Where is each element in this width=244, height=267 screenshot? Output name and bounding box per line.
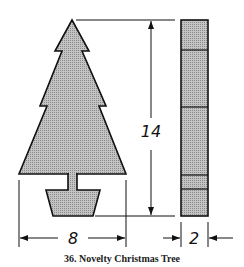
tree-trunk-and-pot xyxy=(46,174,100,216)
tree-crown xyxy=(19,20,126,174)
tree-front-view xyxy=(19,20,126,216)
drawing: 14 8 2 xyxy=(0,0,244,267)
height-value: 14 xyxy=(141,122,161,141)
thickness-value: 2 xyxy=(189,229,199,248)
tree-side-view xyxy=(181,20,208,216)
width-value: 8 xyxy=(68,229,78,248)
thickness-dimension: 2 xyxy=(163,222,233,248)
figure-caption: 36. Novelty Christmas Tree xyxy=(0,253,244,264)
